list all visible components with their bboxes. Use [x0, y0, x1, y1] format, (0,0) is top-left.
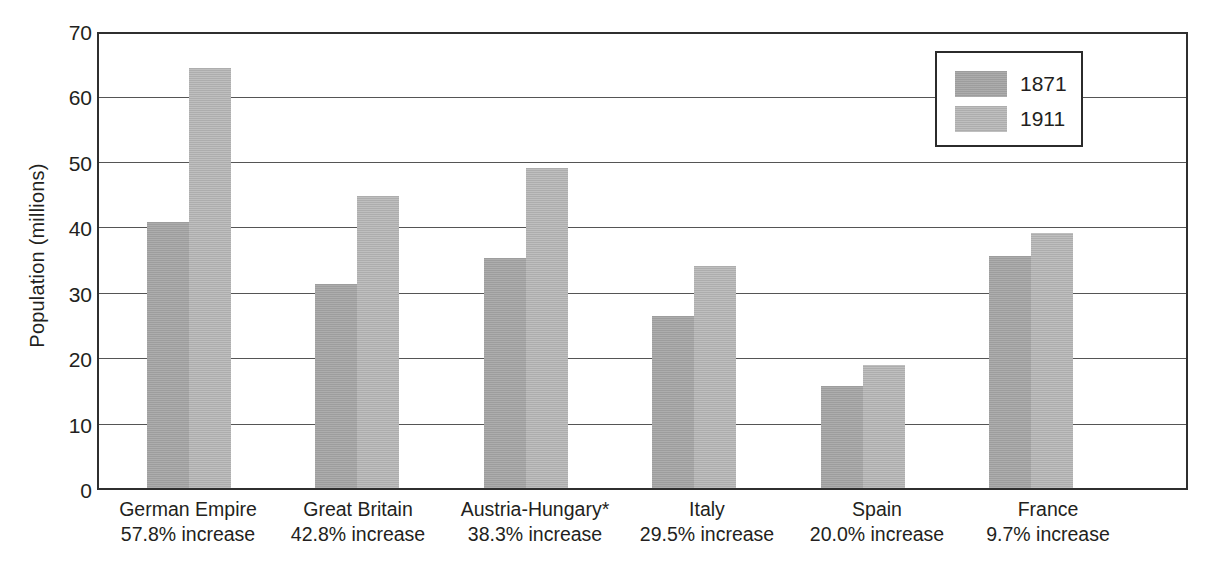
- plot-area: 1871 1911: [97, 32, 1188, 490]
- gridline-50: [99, 162, 1186, 163]
- bar-german-empire-1871: [147, 222, 189, 488]
- legend-swatch-1871-icon: [955, 71, 1007, 97]
- bar-austria-hungary-1911: [526, 168, 568, 488]
- bar-italy-1911: [694, 266, 736, 488]
- chart-legend: 1871 1911: [935, 51, 1083, 147]
- x-category-sub-5: 9.7% increase: [948, 522, 1148, 547]
- y-tick-label-30: 30: [22, 284, 92, 305]
- x-category-label-4: Spain 20.0% increase: [777, 497, 977, 547]
- y-tick-label-70: 70: [22, 22, 92, 43]
- legend-entry-1871: 1871: [955, 66, 1081, 101]
- bar-german-empire-1911: [189, 68, 231, 488]
- x-category-sub-4: 20.0% increase: [777, 522, 977, 547]
- x-category-name-5: France: [948, 497, 1148, 522]
- legend-label-1911: 1911: [1020, 108, 1065, 129]
- y-tick-label-50: 50: [22, 153, 92, 174]
- x-category-label-5: France 9.7% increase: [948, 497, 1148, 547]
- bar-spain-1871: [821, 386, 863, 488]
- bar-france-1911: [1031, 233, 1073, 488]
- bar-france-1871: [989, 256, 1031, 488]
- y-tick-label-60: 60: [22, 87, 92, 108]
- y-tick-label-0: 0: [22, 480, 92, 501]
- legend-label-1871: 1871: [1020, 73, 1067, 94]
- y-tick-label-40: 40: [22, 218, 92, 239]
- bar-great-britain-1911: [357, 196, 399, 489]
- population-bar-chart: Population (millions) 70 60 50 40 30 20 …: [0, 0, 1209, 572]
- gridline-40: [99, 227, 1186, 228]
- x-category-name-4: Spain: [777, 497, 977, 522]
- y-tick-label-20: 20: [22, 349, 92, 370]
- bar-great-britain-1871: [315, 284, 357, 488]
- bar-italy-1871: [652, 316, 694, 488]
- legend-entry-1911: 1911: [955, 101, 1081, 136]
- y-tick-label-10: 10: [22, 415, 92, 436]
- bar-austria-hungary-1871: [484, 258, 526, 488]
- legend-swatch-1911-icon: [955, 106, 1007, 132]
- bar-spain-1911: [863, 365, 905, 488]
